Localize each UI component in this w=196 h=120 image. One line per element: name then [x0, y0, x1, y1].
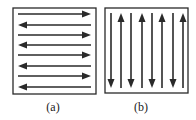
arrow-left-icon — [18, 63, 91, 70]
caption-b: (b) — [121, 100, 161, 115]
arrow-down-icon — [108, 13, 115, 88]
arrow-up-icon — [159, 13, 166, 88]
arrow-left-icon — [18, 84, 91, 91]
arrow-down-icon — [149, 13, 156, 88]
arrow-left-icon — [18, 22, 91, 29]
arrow-down-icon — [170, 13, 177, 88]
panel-a-horizontal-scan — [13, 8, 96, 94]
arrow-right-icon — [18, 11, 91, 18]
arrow-down-icon — [128, 13, 135, 88]
arrow-right-icon — [18, 52, 91, 59]
panel-b-vertical-scan — [105, 8, 188, 93]
arrow-left-icon — [18, 42, 91, 49]
arrow-right-icon — [18, 73, 91, 80]
arrow-up-icon — [139, 13, 146, 88]
scan-pattern-diagram — [0, 0, 196, 120]
caption-a: (a) — [33, 100, 73, 115]
arrow-up-icon — [118, 13, 125, 88]
arrow-up-icon — [180, 13, 187, 88]
panel-a-border — [13, 8, 96, 94]
arrow-right-icon — [18, 32, 91, 39]
